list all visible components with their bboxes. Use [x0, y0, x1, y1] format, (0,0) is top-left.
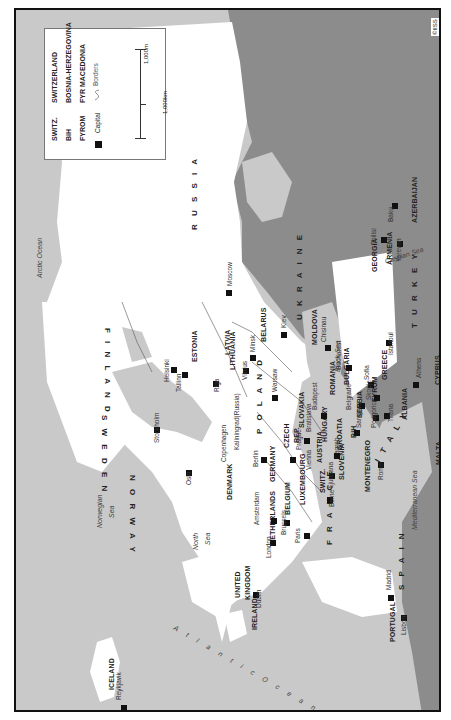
capital-kiev: Kiev [281, 315, 288, 328]
capital-marker-reykjavik [121, 705, 127, 711]
label-cyprus: CYPRUS [434, 355, 441, 385]
capital-london: London [266, 536, 273, 558]
copyright: ©IISS [431, 18, 439, 36]
capital-oslo: Oslo [186, 472, 193, 485]
capital-kaliningrad: Kaliningrad(Russia) [234, 393, 241, 450]
capital-podgorica: Podgorica [371, 399, 378, 428]
label-spain: S P A I N [398, 530, 406, 590]
capital-vilnius: Vilnius [242, 361, 249, 380]
label-germany: GERMANY [269, 446, 276, 482]
capital-istanbul: Istanbul [388, 332, 395, 355]
capital-berlin: Berlin [253, 450, 260, 467]
capital-berne: Berne [329, 490, 336, 507]
legend-borders-label: Borders [93, 63, 100, 86]
capital-dublin: Dublin [256, 590, 263, 608]
label-turkey: T U R K E Y [411, 251, 419, 328]
capital-marker-madrid [388, 595, 394, 601]
capital-marker-paris [304, 533, 310, 539]
legend-abbr-switz: SWITZ. [51, 117, 58, 141]
capital-marker-kiev [281, 332, 287, 338]
legend-full-fyrom: FYR MACEDONIA [79, 44, 86, 103]
label-finland: F I N L A N D [103, 328, 111, 415]
label-north-sea-1: North [192, 533, 199, 550]
capital-marker-zagreb [334, 453, 340, 459]
label-sweden: S W E D E N [100, 415, 108, 494]
label-denmark: DENMARK [226, 464, 233, 500]
capital-stockholm: Stockholm [154, 413, 161, 443]
legend-full-bih: BOSNIA-HERZEGOVINA [65, 22, 72, 103]
label-belarus: BELARUS [260, 307, 267, 342]
capital-marker-amsterdam [271, 518, 277, 524]
label-arctic-ocean: Arctic Ocean [36, 238, 43, 278]
capital-athens: Athens [416, 358, 423, 378]
capital-marker-prague [290, 457, 296, 463]
label-ukraine: U K R A I N E [296, 232, 304, 320]
capital-vienna: Vienna [306, 450, 313, 470]
label-azerbaijan: AZERBAIJAN [411, 177, 418, 223]
scale-km-label: 1,000km [162, 91, 168, 114]
capital-brussels: Brussels [281, 510, 288, 535]
label-switz: SWITZ. [319, 469, 326, 493]
label-czech-1: CZECH [283, 423, 290, 448]
capital-belgrade: Belgrade [346, 384, 353, 410]
capital-minsk: Minsk [250, 335, 257, 352]
legend-capital-label: Capital [95, 113, 102, 133]
capital-marker-sarajevo [354, 430, 360, 436]
capital-warsaw: Warsaw [272, 369, 279, 392]
label-russia: R U S S I A [191, 156, 199, 230]
capital-tbilisi: Tbilisi [371, 228, 378, 245]
capital-bucharest: Bucharest [336, 341, 343, 370]
capital-marker-bucharest [346, 365, 352, 371]
capital-paris: Paris [295, 528, 302, 543]
capital-marker-helsinki [171, 367, 177, 373]
capital-helsinki: Helsinki [164, 359, 171, 382]
label-hungary: HUNGARY [321, 406, 328, 442]
capital-amsterdam: Amsterdam [254, 492, 261, 525]
label-mediterranean-sea: Mediterranean Sea [411, 470, 418, 530]
map-legend: SWITZ. SWITZERLAND BiH BOSNIA-HERZEGOVIN… [44, 28, 166, 160]
label-malta: MALTA [435, 441, 441, 465]
capital-rome: Rome [378, 463, 385, 480]
label-norwegian-sea-2: Sea [108, 506, 115, 518]
capital-skopje: Skopje [366, 380, 373, 400]
capital-copenhagen: Copenhagen [221, 425, 228, 462]
capital-marker-minsk [250, 355, 256, 361]
capital-moscow: Moscow [227, 262, 234, 286]
capital-lisbon: Lisbon [401, 616, 408, 635]
capital-marker-berlin [261, 457, 267, 463]
capital-marker-tbilisi [381, 237, 387, 243]
capital-prague: Prague [296, 429, 303, 450]
capital-ljubljana: Ljubljana [328, 462, 335, 488]
capital-marker-bratislava [304, 438, 310, 444]
capital-marker-budapest [321, 413, 327, 419]
capital-tirana: Tirana [388, 404, 395, 422]
label-slovakia: SLOVAKIA [298, 392, 305, 428]
capital-chisinau: Chisinau [321, 317, 328, 342]
label-portugal: PORTUGAL [389, 602, 396, 642]
legend-border-icon [93, 89, 103, 101]
capital-baku: Baku [388, 207, 395, 222]
capital-tallinn: Tallinn [176, 374, 183, 392]
capital-marker-chisinau [325, 345, 331, 351]
label-norwegian-sea-1: Norwegian [96, 495, 103, 528]
label-estonia: ESTONIA [191, 330, 198, 362]
label-uk-1: UNITED [234, 571, 241, 598]
capital-madrid: Madrid [386, 570, 393, 590]
capital-marker-warsaw [272, 395, 278, 401]
scale-bar [125, 49, 155, 139]
legend-full-switz: SWITZERLAND [51, 52, 58, 103]
capital-marker-tallinn [182, 372, 188, 378]
label-lithuania: LITHUANIA [229, 331, 236, 370]
scale-miles-label: 1,000m [143, 44, 149, 64]
label-armenia: ARMENIA [386, 232, 393, 265]
label-north-sea-2: Sea [204, 533, 211, 545]
capital-reykjavik: Reykjavik [116, 672, 123, 700]
label-uk-2: KINGDOM [244, 565, 251, 600]
legend-abbr-bih: BiH [65, 129, 72, 141]
label-moldova: MOLDOVA [311, 309, 318, 345]
capital-sarajevo: Sarajevo [356, 402, 363, 428]
capital-marker-athens [413, 382, 419, 388]
capital-marker-moscow [226, 290, 232, 296]
label-poland: P O L A N D [256, 357, 264, 434]
label-norway: N O R W A Y [128, 475, 136, 555]
